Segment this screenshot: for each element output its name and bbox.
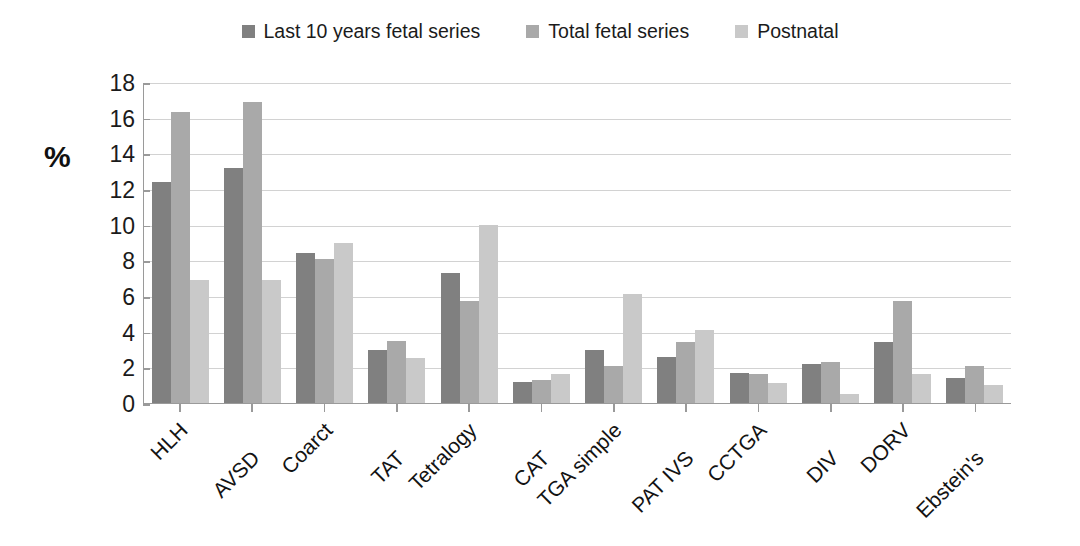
bar[interactable] (406, 358, 425, 403)
x-axis-tick-mark (613, 404, 615, 412)
x-axis-tick-mark (251, 404, 253, 412)
bar[interactable] (946, 378, 965, 403)
x-axis-tick-mark (468, 404, 470, 412)
x-axis-tick-labels: HLHAVSDCoarctTATTetralogyCATTGA simplePA… (143, 404, 1011, 544)
bar[interactable] (965, 366, 984, 403)
bar[interactable] (623, 294, 642, 403)
x-axis-tick-mark (758, 404, 760, 412)
y-axis-tick-mark (143, 368, 150, 370)
y-axis-tick-mark (143, 119, 150, 121)
y-axis-tick-mark (143, 333, 150, 335)
bar-group (939, 83, 1011, 403)
x-axis-tick-mark (324, 404, 326, 412)
y-axis-tick-mark (143, 190, 150, 192)
bar-group (794, 83, 866, 403)
bar[interactable] (479, 225, 498, 403)
bar[interactable] (749, 374, 768, 403)
y-axis-title: % (44, 140, 71, 174)
bar[interactable] (334, 243, 353, 404)
bar-group (433, 83, 505, 403)
x-axis-tick-label: DIV (803, 444, 845, 486)
legend-item-label: Total fetal series (548, 22, 689, 42)
bar[interactable] (243, 102, 262, 403)
bar-group (867, 83, 939, 403)
bar[interactable] (874, 342, 893, 403)
bars-layer (144, 83, 1011, 403)
bar[interactable] (912, 374, 931, 403)
x-axis-tick-cell: TGA simple (577, 404, 649, 544)
legend-item[interactable]: Total fetal series (526, 22, 689, 42)
bar[interactable] (262, 280, 281, 403)
bar[interactable] (190, 280, 209, 403)
bar[interactable] (513, 382, 532, 403)
y-axis-tick-label: 6 (122, 286, 135, 309)
y-axis-tick-label: 8 (122, 250, 135, 273)
x-axis-tick-cell: HLH (143, 404, 215, 544)
bar[interactable] (821, 362, 840, 403)
x-axis-tick-cell: CCTGA (722, 404, 794, 544)
bar[interactable] (676, 342, 695, 403)
bar[interactable] (460, 301, 479, 403)
bar[interactable] (695, 330, 714, 403)
x-axis-tick-label: TAT (367, 444, 411, 488)
x-axis-tick-mark (685, 404, 687, 412)
x-axis-tick-label: AVSD (209, 444, 266, 501)
x-axis-tick-cell: Coarct (288, 404, 360, 544)
y-axis-tick-label: 10 (109, 214, 135, 237)
bar[interactable] (768, 383, 787, 403)
y-axis-tick-mark (143, 83, 150, 85)
legend-item[interactable]: Last 10 years fetal series (242, 22, 481, 42)
bar[interactable] (730, 373, 749, 403)
legend-square-swatch (242, 25, 255, 38)
bar[interactable] (296, 253, 315, 403)
legend-item[interactable]: Postnatal (735, 22, 838, 42)
y-axis-tick-mark (143, 154, 150, 156)
bar[interactable] (532, 380, 551, 403)
bar[interactable] (551, 374, 570, 403)
y-axis-tick-mark (143, 404, 150, 406)
bar[interactable] (657, 357, 676, 403)
legend-square-swatch (735, 25, 748, 38)
y-axis-tick-mark (143, 261, 150, 263)
chart-legend: Last 10 years fetal seriesTotal fetal se… (0, 22, 1080, 42)
bar[interactable] (840, 394, 859, 403)
bar[interactable] (224, 168, 243, 403)
bar-group (216, 83, 288, 403)
y-axis-tick-mark (143, 226, 150, 228)
x-axis-tick-label: DORV (857, 416, 917, 476)
bar-group (722, 83, 794, 403)
bar[interactable] (604, 366, 623, 403)
bar[interactable] (315, 259, 334, 403)
legend-item-label: Postnatal (757, 22, 838, 42)
bar[interactable] (441, 273, 460, 403)
plot-area (143, 83, 1011, 404)
bar[interactable] (171, 112, 190, 403)
x-axis-tick-mark (179, 404, 181, 412)
bar[interactable] (368, 350, 387, 404)
bar[interactable] (893, 301, 912, 403)
bar-chart: Last 10 years fetal seriesTotal fetal se… (0, 0, 1080, 546)
y-axis-tick-label: 16 (109, 107, 135, 130)
bar-group (650, 83, 722, 403)
bar-group (289, 83, 361, 403)
x-axis-tick-mark (396, 404, 398, 412)
x-axis-tick-cell: AVSD (215, 404, 287, 544)
bar[interactable] (585, 350, 604, 404)
bar[interactable] (984, 385, 1003, 403)
x-axis-tick-cell: DORV (866, 404, 938, 544)
x-axis-tick-mark (902, 404, 904, 412)
x-axis-tick-cell: Tetralogy (432, 404, 504, 544)
bar-group (505, 83, 577, 403)
x-axis-tick-cell: DIV (794, 404, 866, 544)
x-axis-tick-mark (830, 404, 832, 412)
bar[interactable] (152, 182, 171, 403)
x-axis-tick-cell: Ebstein's (939, 404, 1011, 544)
bar[interactable] (387, 341, 406, 403)
bar[interactable] (802, 364, 821, 403)
y-axis-tick-label: 12 (109, 179, 135, 202)
y-axis-tick-mark (143, 297, 150, 299)
y-axis-tick-label: 2 (122, 357, 135, 380)
y-axis-tick-label: 18 (109, 72, 135, 95)
y-axis-tick-label: 14 (109, 143, 135, 166)
bar-group (578, 83, 650, 403)
